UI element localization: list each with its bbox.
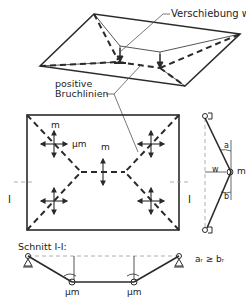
m-label-side: m [237, 167, 246, 176]
mu-m-label: µm [72, 140, 87, 149]
section-mark-left: I [8, 195, 11, 205]
b-r-label: b [224, 193, 229, 201]
section-mark-right: I [188, 195, 191, 205]
m-label-1: m [51, 121, 60, 130]
yield-lines-label: Bruchlinien [55, 89, 109, 99]
a-r-label: a [224, 142, 229, 150]
plan-view [14, 115, 190, 230]
section-view [23, 254, 184, 286]
perspective-slab [40, 14, 240, 86]
section-title: Schnitt I-I: [18, 242, 67, 252]
w-label: w [212, 166, 219, 174]
displacement-label: Verschiebung w [171, 9, 246, 19]
mu-m-section-right: µm [127, 288, 142, 297]
m-label-2: m [101, 143, 110, 152]
inequality-label: aᵣ ≥ bᵣ [195, 255, 224, 264]
mu-m-section-left: µm [65, 288, 80, 297]
